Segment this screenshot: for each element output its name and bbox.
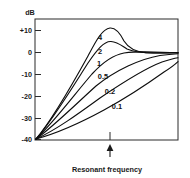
curve-label-2: 2 <box>98 47 102 56</box>
y-tick-label-minus40: -40 <box>22 135 32 144</box>
y-tick-label-minus20: -20 <box>22 92 32 101</box>
curve-q-0-5 <box>36 54 178 139</box>
y-tick-label-plus10: +10 <box>20 26 32 35</box>
curve-label-0-2: 0.2 <box>105 87 115 96</box>
y-tick-label-minus10: -10 <box>22 70 32 79</box>
curve-label-4: 4 <box>98 33 103 42</box>
y-axis-ticks <box>35 31 41 140</box>
y-axis-title: dB <box>25 8 35 17</box>
curve-label-1: 1 <box>97 59 101 68</box>
curve-q-4 <box>36 28 178 139</box>
curve-label-0-5: 0.5 <box>98 72 108 81</box>
y-tick-label-minus30: -30 <box>22 114 32 123</box>
chart-figure: dB +10 0 -10 -20 -30 -40 4 2 1 0.5 0.2 0… <box>0 0 190 178</box>
x-axis-caption: Resonant frequency <box>72 165 143 174</box>
frequency-response-chart: dB +10 0 -10 -20 -30 -40 4 2 1 0.5 0.2 0… <box>0 0 190 178</box>
resonant-frequency-arrow-head <box>107 144 114 151</box>
curve-label-0-1: 0.1 <box>112 102 122 111</box>
curve-q-0-2 <box>36 58 178 139</box>
y-tick-label-0: 0 <box>28 48 32 57</box>
